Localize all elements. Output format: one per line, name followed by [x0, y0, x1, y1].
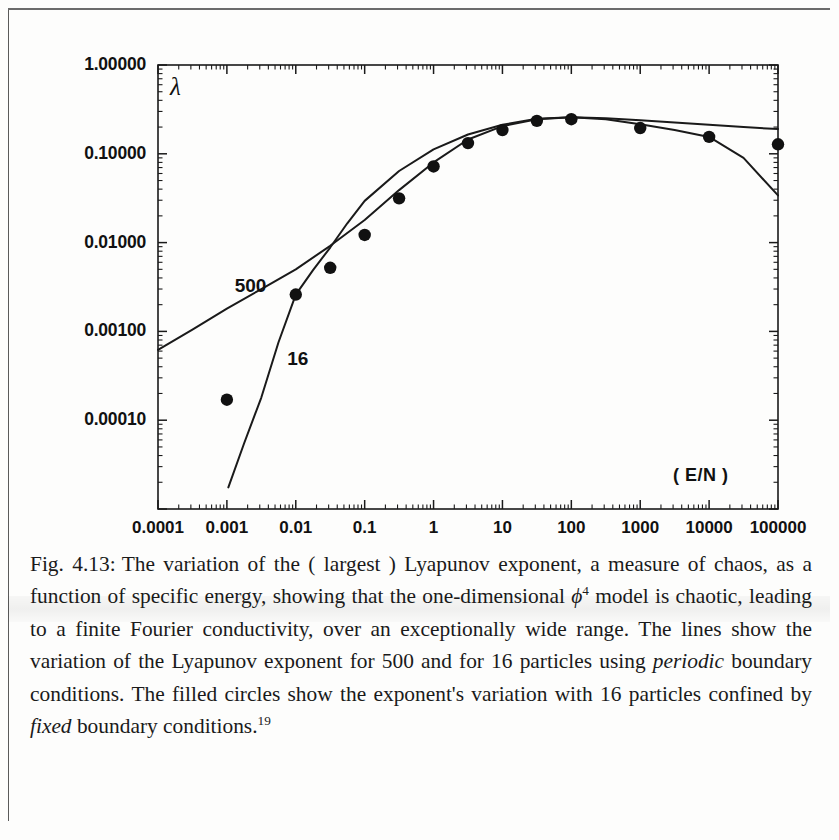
y-tick-label: 0.01000 [36, 232, 146, 253]
x-tick-label: 100000 [750, 518, 807, 538]
y-tick-label: 0.00010 [36, 409, 146, 430]
caption-phi-symbol: ϕ [571, 584, 582, 608]
x-tick-label: 100 [557, 518, 585, 538]
curve-16 [228, 117, 778, 487]
x-tick-label: 0.01 [279, 518, 312, 538]
curve-label-16: 16 [287, 348, 308, 370]
x-tick-label: 0.0001 [132, 518, 184, 538]
caption-phi-exponent: 4 [582, 583, 589, 598]
x-tick-label: 1000 [621, 518, 659, 538]
x-axis-label: ( E/N ) [673, 465, 729, 486]
figure-caption: Fig. 4.13:The variation of the ( largest… [30, 548, 812, 742]
y-tick-label: 0.10000 [36, 143, 146, 164]
caption-text-part4: boundary conditions. [72, 714, 258, 738]
x-tick-label: 10 [493, 518, 512, 538]
plot-svg [0, 0, 839, 540]
figure-lyapunov-plot: λ ( E/N ) 1.000000.100000.010000.001000.… [0, 0, 839, 540]
curve-label-500: 500 [235, 275, 267, 297]
y-tick-label: 1.00000 [36, 54, 146, 75]
curve-500 [158, 117, 778, 350]
caption-italic-periodic: periodic [653, 649, 724, 673]
caption-figure-number: Fig. 4.13: [30, 552, 116, 576]
x-tick-label: 0.1 [353, 518, 377, 538]
caption-footnote-marker: 19 [258, 713, 271, 728]
caption-italic-fixed: fixed [30, 714, 72, 738]
page: λ ( E/N ) 1.000000.100000.010000.001000.… [0, 0, 839, 840]
x-tick-label: 0.001 [206, 518, 249, 538]
y-tick-label: 0.00100 [36, 320, 146, 341]
x-tick-label: 10000 [685, 518, 732, 538]
y-axis-label: λ [170, 73, 181, 101]
x-tick-label: 1 [429, 518, 438, 538]
